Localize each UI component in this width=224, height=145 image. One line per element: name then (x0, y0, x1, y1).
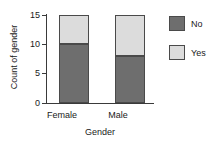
bar-male[interactable] (115, 15, 145, 103)
bar-segment-female-no[interactable] (59, 44, 89, 103)
legend-item-no[interactable]: No (169, 16, 203, 31)
stacked-bar-chart: Count of gender 15 10 5 0 Female Male Ge… (0, 0, 224, 145)
legend-swatch-no-icon (169, 16, 185, 31)
x-axis-line (46, 103, 154, 104)
legend-label-yes: Yes (191, 48, 206, 58)
legend-item-yes[interactable]: Yes (169, 45, 206, 60)
x-tick-label-female: Female (39, 110, 85, 120)
bar-segment-female-yes[interactable] (59, 15, 89, 44)
plot-area (47, 15, 152, 103)
bar-segment-male-no[interactable] (115, 56, 145, 103)
y-tick-label-0: 0 (35, 99, 40, 108)
legend-swatch-yes-icon (169, 45, 185, 60)
x-axis-title: Gender (46, 127, 154, 137)
legend-label-no: No (191, 19, 203, 29)
y-axis-title: Count of gender (9, 7, 19, 107)
bar-segment-male-yes[interactable] (115, 15, 145, 56)
x-tick-label-male: Male (97, 110, 139, 120)
y-tick-label-10: 10 (30, 40, 40, 49)
bar-female[interactable] (59, 15, 89, 103)
y-tick-label-15: 15 (30, 11, 40, 20)
y-tick-label-5: 5 (35, 69, 40, 78)
